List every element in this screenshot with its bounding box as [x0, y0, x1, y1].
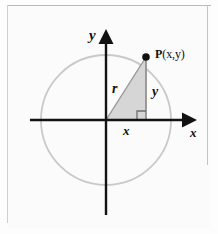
y-axis-label: y: [89, 28, 96, 43]
coordinate-diagram: [0, 0, 218, 234]
horizontal-leg-label-x: x: [123, 124, 130, 137]
point-p-dot: [142, 53, 150, 61]
y-axis-arrowhead: [99, 29, 114, 44]
x-axis-label: x: [190, 126, 197, 139]
figure-container: y x r y x P(x,y): [0, 0, 218, 234]
point-p-label: P(x,y): [155, 48, 185, 60]
hypotenuse-label-r: r: [112, 82, 117, 96]
vertical-leg-label-y: y: [152, 85, 158, 99]
point-p-coords: (x,y): [162, 47, 185, 61]
